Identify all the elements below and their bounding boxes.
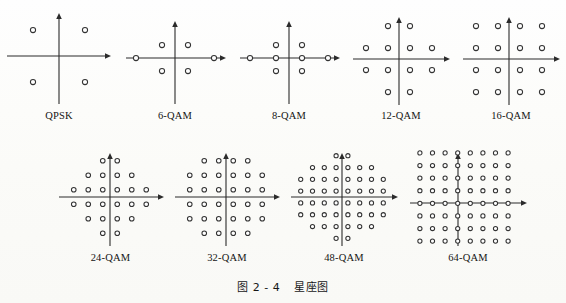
panel-label-qam32: 32-QAM bbox=[207, 252, 247, 263]
figure-caption: 图2 - 4星座图 bbox=[0, 278, 566, 294]
panel-qam12: 12-QAM bbox=[346, 4, 456, 121]
panel-qpsk: QPSK bbox=[0, 4, 118, 121]
caption-title: 星座图 bbox=[294, 281, 329, 294]
constellation-plot-qam6 bbox=[120, 18, 230, 108]
panel-qam16: 16-QAM bbox=[456, 4, 566, 121]
panel-label-qpsk: QPSK bbox=[45, 110, 73, 121]
caption-prefix: 图 bbox=[237, 281, 249, 294]
plot-qam8 bbox=[234, 18, 344, 108]
caption-number: 2 - 4 bbox=[253, 281, 280, 294]
figure-page: QPSK 6-QAM 8-QAM 12-QAM bbox=[0, 0, 566, 303]
constellation-plot-qpsk bbox=[3, 10, 115, 108]
panel-qam48: 48-QAM bbox=[285, 150, 403, 263]
constellation-plot-qam8 bbox=[234, 18, 344, 108]
panel-label-qam8: 8-QAM bbox=[272, 110, 306, 121]
panel-label-qam6: 6-QAM bbox=[158, 110, 192, 121]
plot-qam16 bbox=[459, 14, 563, 108]
panel-label-qam12: 12-QAM bbox=[381, 110, 421, 121]
plot-qam48 bbox=[287, 150, 401, 250]
panel-label-qam64: 64-QAM bbox=[448, 252, 488, 263]
panel-qam24: 24-QAM bbox=[52, 150, 169, 263]
constellation-plot-qam64 bbox=[406, 150, 530, 250]
constellation-row-top: QPSK 6-QAM 8-QAM 12-QAM bbox=[0, 4, 566, 121]
panel-qam8: 8-QAM bbox=[232, 4, 346, 121]
panel-qam32: 32-QAM bbox=[169, 150, 285, 263]
panel-qam6: 6-QAM bbox=[118, 4, 232, 121]
constellation-plot-qam48 bbox=[287, 150, 401, 250]
plot-qam12 bbox=[349, 14, 453, 108]
constellation-plot-qam24 bbox=[55, 150, 167, 250]
constellation-row-bottom: 24-QAM 32-QAM 48-QAM 64-QAM bbox=[0, 150, 566, 263]
panel-label-qam16: 16-QAM bbox=[491, 110, 531, 121]
plot-qam6 bbox=[120, 18, 230, 108]
constellation-plot-qam12 bbox=[349, 14, 453, 108]
constellation-plot-qam32 bbox=[171, 150, 283, 250]
constellation-plot-qam16 bbox=[459, 14, 563, 108]
panel-qam64: 64-QAM bbox=[403, 150, 533, 263]
plot-qpsk bbox=[3, 10, 115, 108]
constellation-figure: QPSK 6-QAM 8-QAM 12-QAM bbox=[0, 0, 566, 272]
plot-qam24 bbox=[55, 150, 167, 250]
plot-qam64 bbox=[406, 150, 530, 250]
panel-label-qam24: 24-QAM bbox=[91, 252, 131, 263]
plot-qam32 bbox=[171, 150, 283, 250]
panel-label-qam48: 48-QAM bbox=[324, 252, 364, 263]
